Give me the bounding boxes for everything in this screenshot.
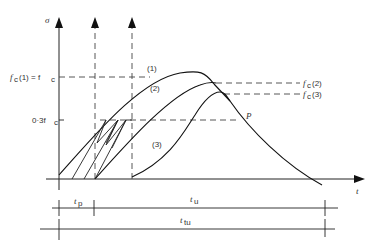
tu-label: t bbox=[190, 194, 193, 204]
fc3-label: (3) bbox=[312, 90, 322, 99]
fc1-sub: c bbox=[14, 75, 18, 84]
arrow-up-icon bbox=[128, 17, 136, 28]
svg-text:c: c bbox=[51, 75, 55, 84]
duration-ttu: t tu bbox=[40, 215, 335, 240]
tp-label: t bbox=[74, 196, 77, 206]
x-axis: t bbox=[46, 175, 365, 196]
svg-text:c: c bbox=[54, 118, 58, 127]
curve-3-label: (3) bbox=[152, 140, 162, 149]
fc2-label: (2) bbox=[312, 79, 322, 88]
stress-time-diagram: σ t f c (1) = f c f c (2) f c (3) 0·3f c bbox=[0, 0, 373, 251]
y-axis: σ bbox=[45, 15, 63, 190]
svg-text:u: u bbox=[194, 197, 198, 206]
level-labels: f c (1) = f c f c (2) f c (3) 0·3f c bbox=[10, 72, 322, 127]
point-03fc-label: 0·3f bbox=[32, 116, 47, 125]
svg-text:tu: tu bbox=[184, 218, 191, 227]
duration-tp-tu: t p t u bbox=[52, 194, 338, 216]
x-axis-arrow-icon bbox=[354, 175, 365, 183]
y-axis-arrow-icon bbox=[55, 17, 63, 28]
point-p-label: P bbox=[245, 111, 252, 121]
curve-3 bbox=[132, 92, 322, 185]
arrow-up-icon bbox=[91, 17, 99, 28]
y-axis-label: σ bbox=[45, 15, 50, 25]
svg-text:p: p bbox=[78, 199, 83, 208]
svg-text:c: c bbox=[307, 81, 311, 90]
curve-1 bbox=[59, 72, 214, 175]
cyclic-loops bbox=[72, 120, 132, 179]
svg-text:c: c bbox=[307, 92, 311, 101]
curve-2-label: (2) bbox=[150, 84, 160, 93]
fc1-label: (1) = f bbox=[19, 73, 41, 82]
curve-1-label: (1) bbox=[147, 64, 157, 73]
x-axis-label: t bbox=[356, 186, 359, 196]
ttu-label: t bbox=[180, 215, 183, 225]
